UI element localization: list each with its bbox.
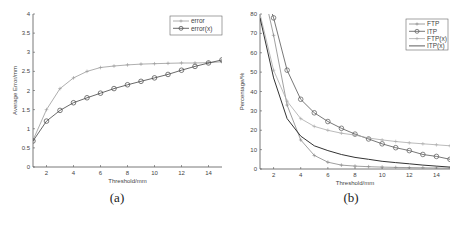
y-tick-label: 30 xyxy=(250,108,257,114)
y-tick-label: 0 xyxy=(254,166,258,172)
legend-entry: error xyxy=(191,17,206,24)
axes: 246810121400.511.522.533.54Threshold/mmA… xyxy=(12,11,222,184)
percentage-chart: 246810121401020304050607080Threshold/mmP… xyxy=(234,0,468,190)
x-tick-label: 4 xyxy=(72,170,76,176)
x-tick-label: 6 xyxy=(326,172,330,178)
y-tick-label: 20 xyxy=(250,127,257,133)
y-tick-label: 0.5 xyxy=(22,145,31,151)
x-tick-label: 2 xyxy=(45,170,49,176)
caption-b: (b) xyxy=(234,190,468,206)
legend: FTPITPFTP(x)ITP(x) xyxy=(406,19,448,50)
chart-panel-b: 246810121401020304050607080Threshold/mmP… xyxy=(234,0,468,225)
y-tick-label: 3.5 xyxy=(22,30,31,36)
x-tick-label: 14 xyxy=(433,172,440,178)
series-error-x- xyxy=(31,58,225,144)
y-tick-label: 70 xyxy=(250,30,257,36)
chart-panel-a: 246810121400.511.522.533.54Threshold/mmA… xyxy=(0,0,234,225)
legend-entry: error(x) xyxy=(191,25,212,33)
y-tick-label: 40 xyxy=(250,89,257,95)
y-tick-label: 1.5 xyxy=(22,107,31,113)
plot-area xyxy=(31,58,225,144)
x-tick-label: 8 xyxy=(126,170,130,176)
y-tick-label: 2.5 xyxy=(22,68,31,74)
y-tick-label: 80 xyxy=(250,11,257,17)
y-tick-label: 3 xyxy=(27,49,31,55)
legend-entry: FTP xyxy=(427,20,439,27)
legend-entry: ITP(x) xyxy=(427,42,445,50)
x-tick-label: 4 xyxy=(299,172,303,178)
x-tick-label: 6 xyxy=(99,170,103,176)
y-tick-label: 2 xyxy=(27,88,31,94)
y-tick-label: 4 xyxy=(27,11,31,17)
legend: errorerror(x) xyxy=(170,16,222,35)
y-tick-label: 0 xyxy=(27,164,31,170)
y-tick-label: 50 xyxy=(250,69,257,75)
legend-entry: ITP xyxy=(427,28,437,35)
x-tick-label: 12 xyxy=(178,170,185,176)
x-tick-label: 14 xyxy=(205,170,212,176)
x-tick-label: 2 xyxy=(272,172,276,178)
y-tick-label: 10 xyxy=(250,147,257,153)
error-chart: 246810121400.511.522.533.54Threshold/mmA… xyxy=(0,0,234,190)
y-tick-label: 1 xyxy=(27,126,31,132)
x-tick-label: 12 xyxy=(406,172,413,178)
series-error xyxy=(31,60,224,142)
y-axis-label: Percentage/% xyxy=(239,72,245,110)
caption-a: (a) xyxy=(0,190,234,206)
y-tick-label: 60 xyxy=(250,50,257,56)
x-axis-label: Threshold/mm xyxy=(336,180,374,186)
y-axis-label: Average Error/mm xyxy=(12,66,18,115)
x-axis-label: Threshold/mm xyxy=(108,178,146,184)
x-tick-label: 10 xyxy=(151,170,158,176)
x-tick-label: 10 xyxy=(379,172,386,178)
x-tick-label: 8 xyxy=(353,172,357,178)
